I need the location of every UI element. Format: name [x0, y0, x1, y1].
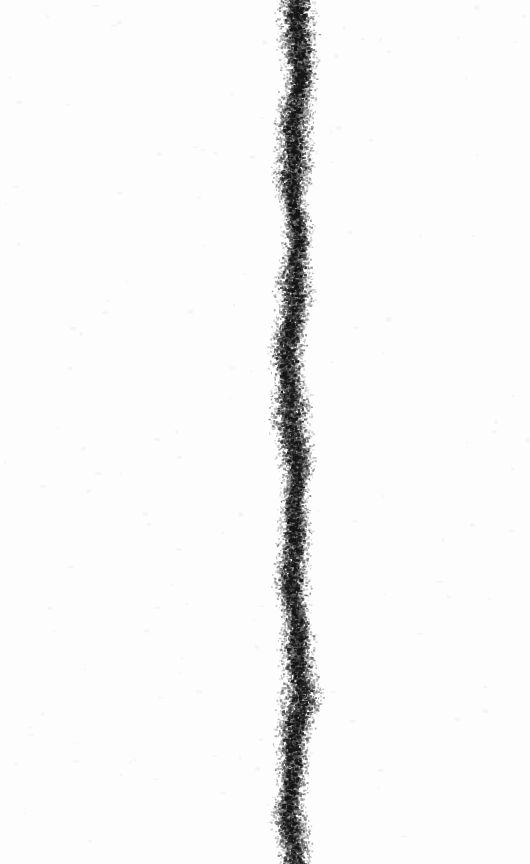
vertical-granular-band — [0, 0, 530, 864]
artboard — [0, 0, 530, 864]
